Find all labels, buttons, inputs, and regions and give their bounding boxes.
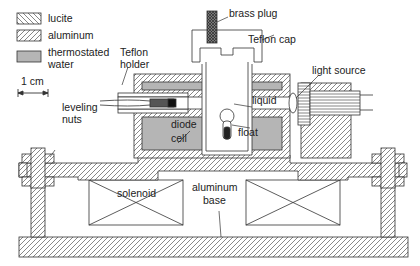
label-teflon-holder-line2: holder — [120, 58, 150, 70]
scale-label: 1 cm — [21, 75, 44, 87]
light-source — [289, 83, 373, 158]
teflon-holder — [100, 93, 188, 113]
legend-swatch-aluminum — [17, 30, 41, 41]
apparatus-diagram: lucite aluminum thermostated water 1 cm — [0, 0, 420, 266]
label-aluminum-base-line1: aluminum — [192, 181, 238, 193]
label-leveling-nuts-line2: nuts — [62, 113, 82, 125]
legend: lucite aluminum thermostated water 1 cm — [17, 12, 109, 97]
label-leveling-nuts-line1: leveling — [62, 101, 98, 113]
label-diode-cell-line2: cell — [171, 132, 187, 144]
label-aluminum-base-line2: base — [203, 194, 226, 206]
legend-swatch-lucite — [17, 13, 41, 24]
legend-label-water-line2: water — [47, 58, 74, 70]
aluminum-base-plate — [19, 237, 408, 257]
scale-bar — [18, 89, 48, 97]
label-diode-cell-line1: diode — [171, 118, 197, 130]
label-teflon-holder-line1: Teflon — [120, 46, 148, 58]
legend-swatch-thermostated-water — [17, 51, 41, 62]
legend-label-water-line1: thermostated — [48, 46, 109, 58]
label-teflon-cap: Teflon cap — [248, 33, 296, 45]
legend-label-aluminum: aluminum — [48, 29, 94, 41]
label-brass-plug: brass plug — [229, 7, 278, 19]
label-float: float — [238, 126, 258, 138]
solenoid-right — [246, 180, 340, 225]
label-liquid: liquid — [252, 94, 277, 106]
label-light-source: light source — [312, 64, 366, 76]
label-solenoid: solenoid — [117, 187, 156, 199]
lens — [289, 93, 297, 113]
legend-label-lucite: lucite — [48, 12, 73, 24]
brass-plug — [207, 11, 217, 43]
aluminum-platform — [19, 155, 405, 180]
cuvette — [202, 62, 252, 155]
